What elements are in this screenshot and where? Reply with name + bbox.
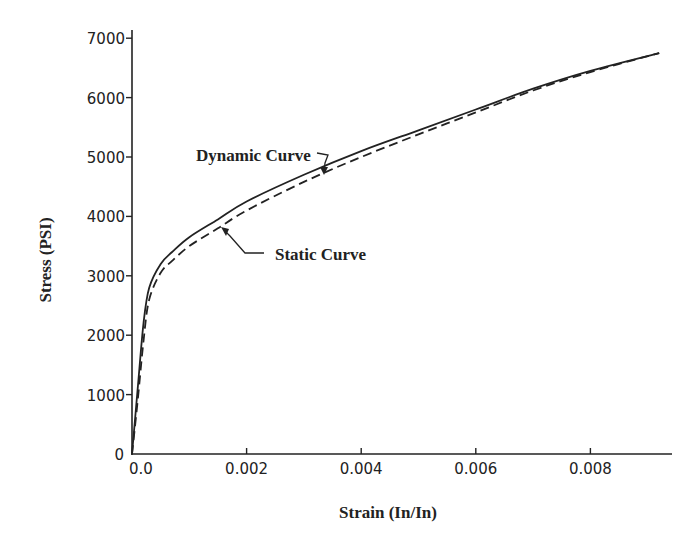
- y-tick-label: 5000: [87, 149, 125, 167]
- y-tick-label: 2000: [87, 327, 125, 345]
- x-tick-label: 0.002: [225, 460, 268, 478]
- y-axis-title: Stress (PSI): [36, 217, 55, 302]
- y-tick-label: 6000: [87, 90, 125, 108]
- x-axis-title: Strain (In/In): [339, 503, 437, 522]
- dynamic-curve: [132, 53, 659, 454]
- static-curve: [132, 53, 659, 454]
- annotations: Dynamic Curve Static Curve: [196, 146, 367, 264]
- x-tick-label: 0.006: [454, 460, 497, 478]
- y-tick-label: 0: [114, 446, 124, 464]
- y-tick-label: 3000: [87, 268, 125, 286]
- y-tick-label: 1000: [87, 387, 125, 405]
- x-ticks: 0.00.0020.0040.0060.008: [129, 448, 612, 478]
- y-tick-label: 7000: [87, 30, 125, 48]
- axes: [131, 30, 672, 455]
- x-tick-label: 0.0: [129, 460, 153, 478]
- stress-strain-chart: 01000200030004000500060007000 0.00.0020.…: [0, 0, 688, 538]
- y-tick-label: 4000: [87, 208, 125, 226]
- curves: [132, 53, 659, 454]
- x-tick-label: 0.008: [569, 460, 612, 478]
- dynamic-curve-label: Dynamic Curve: [196, 146, 311, 165]
- x-tick-label: 0.004: [340, 460, 383, 478]
- static-curve-label: Static Curve: [275, 245, 367, 264]
- static-callout-arrow: [224, 230, 264, 253]
- y-ticks: 01000200030004000500060007000: [87, 30, 132, 464]
